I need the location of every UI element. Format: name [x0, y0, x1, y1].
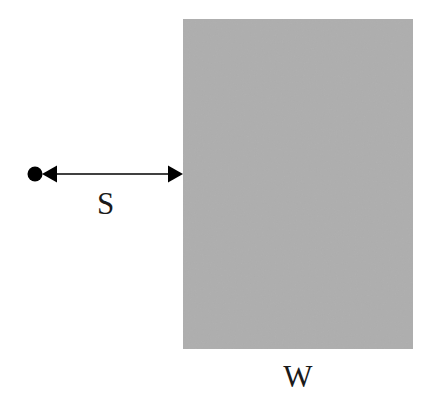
source-point-dot — [28, 167, 43, 182]
gray-region-texture — [183, 19, 413, 349]
arrowhead-right-icon — [168, 166, 183, 183]
arrowhead-left-icon — [42, 166, 57, 183]
width-label-w: W — [183, 361, 413, 392]
figure-canvas: S W — [0, 0, 421, 408]
distance-label-s: S — [0, 188, 211, 219]
